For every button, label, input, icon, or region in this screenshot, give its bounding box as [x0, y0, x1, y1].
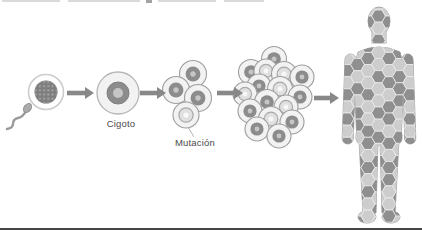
- mutated-nucleolus: [284, 105, 289, 110]
- mutation-mosaicism-diagram: Cigoto Mutación: [0, 0, 422, 233]
- normal-hex-cell: [382, 28, 396, 40]
- sperm-tail: [7, 111, 26, 129]
- cell-nucleolus: [195, 95, 200, 100]
- mutated-nucleolus: [278, 87, 283, 92]
- cell-nucleolus: [255, 127, 260, 132]
- cell-nucleolus: [300, 75, 305, 80]
- normal-hex-cell: [340, 186, 354, 198]
- normal-hex-cell: [403, 125, 417, 137]
- arrow-shaft: [67, 91, 86, 96]
- embryo-cell-light: [173, 102, 199, 128]
- arrow-shaft: [314, 96, 331, 101]
- bottom-border-rule: [0, 228, 422, 230]
- mutated-hex-cell: [403, 89, 417, 101]
- mutated-hex-cell: [382, 16, 396, 28]
- normal-hex-cell: [340, 149, 354, 161]
- normal-hex-cell: [351, 10, 365, 22]
- mutated-hex-cell: [340, 174, 354, 186]
- normal-hex-cell: [403, 77, 417, 89]
- cluster-cell-dark: [245, 117, 269, 141]
- mutated-nucleolus: [282, 72, 287, 77]
- right-arrow-icon: [67, 87, 94, 99]
- mutated-hex-cell: [403, 198, 417, 210]
- normal-hex-cell: [393, 10, 407, 22]
- normal-hex-cell: [393, 34, 407, 46]
- mutated-hex-cell: [403, 174, 417, 186]
- zygote-cell: [97, 72, 139, 114]
- cell-nucleolus: [265, 100, 270, 105]
- cell-nucleolus: [190, 71, 195, 76]
- normal-hex-cell: [393, 216, 407, 228]
- cell-nucleolus: [173, 87, 178, 92]
- four-cell-stage: [163, 61, 212, 138]
- sperm-head: [22, 102, 34, 114]
- normal-hex-cell: [340, 210, 354, 222]
- cell-nucleolus: [277, 134, 282, 139]
- cell-nucleolus: [248, 109, 253, 114]
- normal-hex-cell: [351, 22, 365, 34]
- normal-hex-cell: [340, 4, 354, 16]
- normal-hex-cell: [403, 210, 417, 222]
- normal-hex-cell: [340, 16, 354, 28]
- mutated-hex-cell: [403, 149, 417, 161]
- cell-nucleolus: [298, 95, 303, 100]
- diagram-canvas: [0, 0, 422, 233]
- egg-nucleus-dots: [35, 81, 58, 104]
- mutated-nucleolus: [269, 117, 274, 122]
- normal-hex-cell: [403, 186, 417, 198]
- hex-mosaic: [340, 4, 417, 228]
- normal-hex-cell: [403, 162, 417, 174]
- cell-nucleolus: [249, 70, 254, 75]
- mutated-hex-cell: [340, 198, 354, 210]
- mutated-hex-cell: [403, 113, 417, 125]
- cluster-cell-dark: [267, 124, 291, 148]
- mutated-nucleolus: [264, 69, 269, 74]
- mutation-pointer-line: [188, 127, 194, 137]
- cell-nucleolus: [257, 84, 262, 89]
- normal-hex-cell: [403, 16, 417, 28]
- zygote-nucleolus: [113, 88, 123, 98]
- normal-hex-cell: [340, 162, 354, 174]
- mutated-hex-cell: [403, 137, 417, 149]
- arrow-shaft: [140, 91, 158, 96]
- egg-cell: [29, 75, 64, 110]
- mutation-label: Mutación: [165, 137, 225, 148]
- normal-hex-cell: [403, 40, 417, 52]
- normal-hex-cell: [403, 4, 417, 16]
- normal-hex-cell: [340, 40, 354, 52]
- mutated-nucleolus: [243, 92, 248, 97]
- human-figure-mosaic: [340, 4, 417, 228]
- arrow-shaft: [217, 91, 235, 96]
- cell-nucleolus: [290, 120, 295, 125]
- zygote-label: Cigoto: [96, 118, 146, 129]
- arrow-head: [85, 87, 94, 99]
- normal-hex-cell: [340, 28, 354, 40]
- normal-hex-cell: [393, 22, 407, 34]
- arrow-head: [330, 92, 339, 104]
- right-arrow-icon: [314, 92, 339, 104]
- normal-hex-cell: [403, 28, 417, 40]
- sperm-cell: [7, 102, 33, 129]
- normal-hex-cell: [403, 65, 417, 77]
- cell-cluster-stage: [233, 47, 314, 149]
- mutated-nucleolus: [183, 112, 188, 117]
- mutated-hex-cell: [351, 34, 365, 46]
